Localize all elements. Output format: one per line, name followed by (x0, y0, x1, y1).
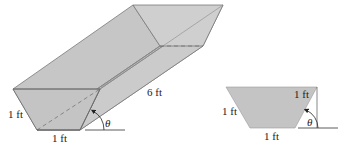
trough-3d (13, 5, 223, 130)
label-bottom: 1 ft (52, 132, 67, 144)
cross-section (226, 87, 338, 128)
label-right-side: 1 ft (294, 88, 309, 100)
trough-diagram: 1 ft 1 ft 6 ft θ 1 ft 1 ft 1 ft θ (0, 0, 344, 152)
label-left-side: 1 ft (222, 105, 237, 117)
label-angle: θ (307, 116, 313, 128)
label-length: 6 ft (147, 86, 162, 98)
label-angle: θ (105, 117, 111, 129)
label-side: 1 ft (8, 108, 23, 120)
label-bottom: 1 ft (264, 130, 279, 142)
